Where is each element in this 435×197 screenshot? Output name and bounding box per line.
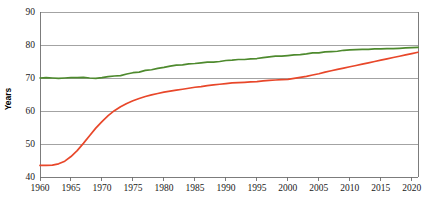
y-axis-tick-label: 40 [26, 172, 36, 182]
x-axis-ticks [40, 177, 412, 181]
y-axis-tick-label: 70 [26, 73, 36, 83]
y-axis-tick-label: 90 [26, 7, 36, 17]
x-axis-tick-label: 1980 [154, 183, 173, 193]
x-axis-tick-label: 2000 [278, 183, 297, 193]
x-axis-tick-label: 2010 [340, 183, 359, 193]
y-axis-tick-labels: 405060708090 [26, 7, 36, 182]
y-axis-title: Years [3, 87, 13, 110]
y-axis-tick-label: 60 [26, 106, 36, 116]
x-axis-tick-label: 2015 [371, 183, 390, 193]
x-axis-tick-label: 1965 [61, 183, 80, 193]
y-axis-tick-label: 50 [26, 139, 36, 149]
x-axis-tick-label: 1970 [92, 183, 111, 193]
x-axis-tick-label: 2005 [309, 183, 328, 193]
x-axis-tick-label: 2020 [402, 183, 421, 193]
x-axis-tick-label: 1995 [247, 183, 266, 193]
x-axis-tick-label: 1960 [31, 183, 50, 193]
x-axis-tick-label: 1985 [185, 183, 204, 193]
plot-background [40, 12, 418, 177]
chart-canvas: 405060708090 196019651970197519801985199… [0, 0, 435, 197]
x-axis-tick-labels: 1960196519701975198019851990199520002005… [31, 183, 422, 193]
x-axis-tick-label: 1990 [216, 183, 235, 193]
line-chart: 405060708090 196019651970197519801985199… [0, 0, 435, 197]
y-axis-tick-label: 80 [26, 40, 36, 50]
x-axis-tick-label: 1975 [123, 183, 142, 193]
